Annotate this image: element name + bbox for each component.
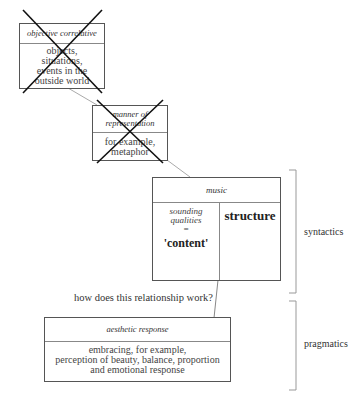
text-line: and emotional response (45, 365, 230, 375)
text-line: = (153, 225, 219, 234)
music-title: music (153, 178, 280, 203)
aesthetic-response-title: aesthetic response (45, 318, 230, 342)
syntactics-label: syntactics (304, 226, 343, 237)
structure-label: structure (220, 208, 280, 224)
content-label: 'content' (153, 236, 219, 251)
music-box: music sounding qualities = 'content' str… (152, 177, 281, 281)
pragmatics-label: pragmatics (304, 338, 348, 349)
relationship-question: how does this relationship work? (74, 292, 213, 303)
aesthetic-response-box: aesthetic response embracing, for exampl… (44, 317, 231, 382)
